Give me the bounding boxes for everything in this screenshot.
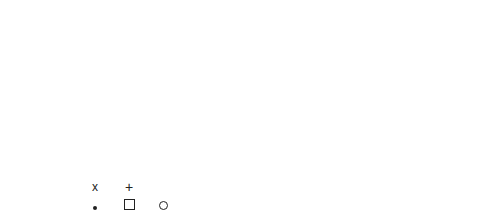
legend-oxygen: x +	[14, 178, 190, 197]
x-mark-icon: x	[88, 178, 102, 197]
legend-aluminum	[14, 197, 190, 216]
square-icon	[122, 197, 136, 216]
structure-diagram	[0, 0, 494, 178]
circle-icon	[156, 197, 170, 216]
dot-icon	[88, 197, 102, 216]
legend: x +	[14, 178, 190, 216]
plus-icon: +	[122, 178, 136, 197]
